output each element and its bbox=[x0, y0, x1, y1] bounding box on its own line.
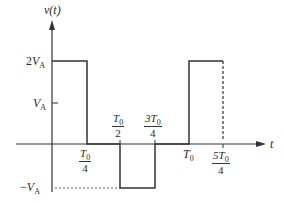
x-label-5t0-quarter: 5T0 4 bbox=[212, 150, 230, 176]
x-label-t0-half: T0 2 bbox=[112, 113, 124, 139]
y-label-2va: 2VA bbox=[26, 55, 45, 69]
sub: 0 bbox=[190, 154, 194, 163]
y-label-va: VA bbox=[33, 97, 46, 111]
x-label-t0-quarter: T0 4 bbox=[79, 148, 91, 174]
x-axis-arrow-icon bbox=[256, 141, 266, 147]
coef: − bbox=[20, 180, 27, 194]
y-axis-title: v(t) bbox=[44, 4, 61, 16]
den: 4 bbox=[150, 127, 156, 139]
den: 2 bbox=[115, 127, 121, 139]
num-sub: 0 bbox=[119, 118, 123, 127]
den: 4 bbox=[218, 164, 224, 176]
sub: A bbox=[40, 103, 46, 112]
var: T bbox=[183, 147, 190, 161]
num-sub: 0 bbox=[225, 155, 229, 164]
den: 4 bbox=[82, 162, 88, 174]
x-axis-title: t bbox=[270, 138, 273, 150]
sub: A bbox=[34, 187, 40, 196]
x-label-t0: T0 bbox=[183, 148, 194, 162]
waveform-pulse-1 bbox=[52, 61, 223, 188]
x-label-3t0-quarter: 3T0 4 bbox=[144, 113, 162, 139]
num: 3T bbox=[145, 112, 157, 124]
y-axis-arrow-icon bbox=[49, 20, 55, 30]
num-sub: 0 bbox=[157, 118, 161, 127]
sub: A bbox=[39, 61, 45, 70]
num: 5T bbox=[213, 149, 225, 161]
y-label-neg-va: −VA bbox=[20, 181, 40, 195]
num-sub: 0 bbox=[86, 153, 90, 162]
